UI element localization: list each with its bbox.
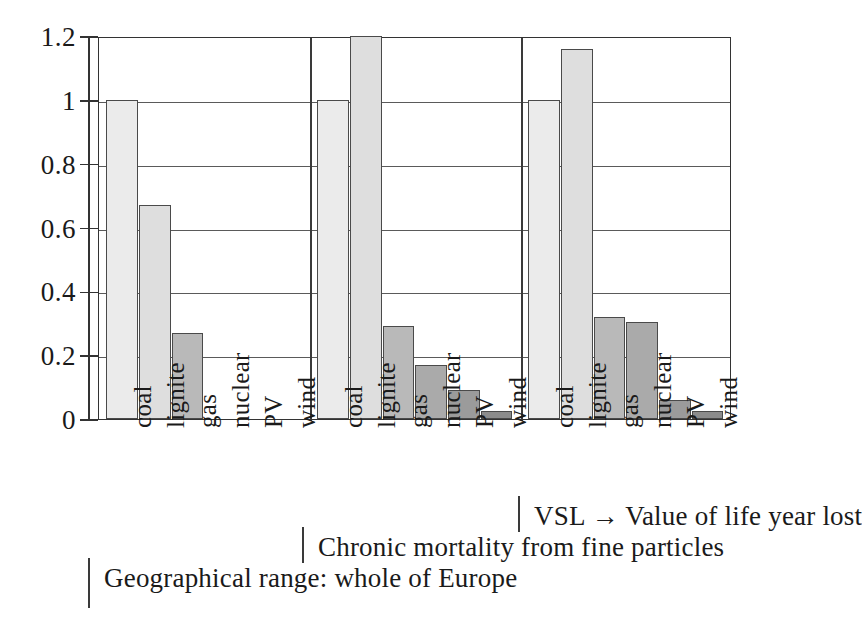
x-axis-category-label-panel-3-coal: coal <box>552 385 577 428</box>
gridline <box>99 293 730 294</box>
y-axis-tick-label: 0.2 <box>14 343 76 370</box>
bar-panel-2-coal <box>317 100 349 419</box>
x-axis-category-label-panel-1-lignite: lignite <box>163 362 188 428</box>
x-axis-category-label-panel-1-nuclear: nuclear <box>228 352 253 428</box>
bar-panel-1-coal <box>106 100 138 419</box>
x-axis-category-label-panel-1-PV: PV <box>261 395 286 428</box>
x-axis-category-label-panel-2-gas: gas <box>406 394 431 428</box>
y-axis-tick-label: 1.2 <box>14 24 76 51</box>
y-axis-tick-label: 1 <box>14 87 76 114</box>
y-axis-labels: 00.20.40.60.811.2 <box>0 0 76 620</box>
caption-stem-chronic <box>302 527 304 563</box>
x-axis-category-label-panel-2-nuclear: nuclear <box>439 352 464 428</box>
panel-separator <box>310 38 312 421</box>
x-axis-category-label-panel-3-wind: wind <box>716 377 741 428</box>
y-axis-tick-label: 0.4 <box>14 279 76 306</box>
y-axis-tick-label: 0 <box>14 407 76 434</box>
caption-stem-geographic <box>88 558 90 608</box>
x-axis-baseline <box>80 419 98 421</box>
x-axis-category-label-panel-3-nuclear: nuclear <box>650 352 675 428</box>
x-axis-category-label-panel-1-coal: coal <box>130 385 155 428</box>
x-axis-category-label-panel-2-wind: wind <box>505 377 530 428</box>
x-axis-category-label-panel-3-lignite: lignite <box>585 362 610 428</box>
x-axis-category-label-panel-2-coal: coal <box>341 385 366 428</box>
gridline <box>99 230 730 231</box>
y-axis-tick-label: 0.6 <box>14 215 76 242</box>
gridline <box>99 166 730 167</box>
gridline <box>99 102 730 103</box>
bar-panel-3-coal <box>528 100 560 419</box>
x-axis-category-label-panel-1-wind: wind <box>294 377 319 428</box>
plot-area <box>98 37 731 420</box>
x-axis-category-label-panel-2-PV: PV <box>472 395 497 428</box>
panel-separator <box>521 38 523 421</box>
caption-stem-vsl <box>518 496 520 532</box>
caption-geographic: Geographical range: whole of Europe <box>104 565 517 592</box>
caption-vsl: VSL → Value of life year lost <box>534 503 862 530</box>
x-axis-category-label-panel-2-lignite: lignite <box>374 362 399 428</box>
y-axis-spine <box>88 37 90 420</box>
x-axis-category-label-panel-3-PV: PV <box>683 395 708 428</box>
x-axis-category-label-panel-1-gas: gas <box>195 394 220 428</box>
caption-chronic: Chronic mortality from fine particles <box>318 534 724 561</box>
x-axis-category-label-panel-3-gas: gas <box>617 394 642 428</box>
y-axis-tick-label: 0.8 <box>14 151 76 178</box>
